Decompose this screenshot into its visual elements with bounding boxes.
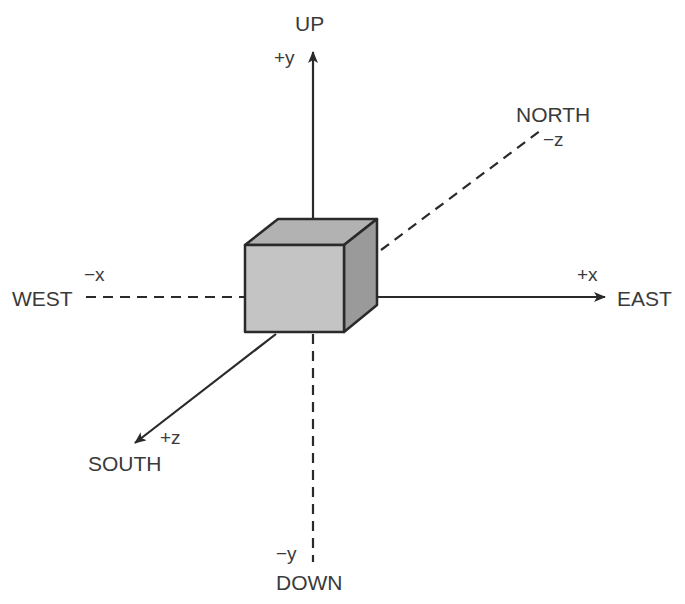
neg-z-label: −z (543, 129, 564, 150)
north-label: NORTH (516, 103, 590, 126)
pos-z-axis (135, 334, 276, 443)
neg-y-label: −y (276, 543, 297, 564)
up-label: UP (295, 12, 324, 35)
cube-front-face (245, 245, 344, 332)
east-label: EAST (617, 287, 672, 310)
neg-z-axis (381, 128, 544, 250)
down-label: DOWN (276, 571, 343, 594)
coordinate-axes-diagram: UP +y NORTH −z −x WEST +x EAST +z SOUTH … (0, 0, 685, 604)
pos-z-label: +z (160, 427, 181, 448)
pos-y-label: +y (274, 47, 295, 68)
pos-x-label: +x (577, 264, 598, 285)
west-label: WEST (12, 287, 73, 310)
neg-x-label: −x (84, 264, 105, 285)
south-label: SOUTH (88, 452, 162, 475)
cube (245, 219, 377, 332)
